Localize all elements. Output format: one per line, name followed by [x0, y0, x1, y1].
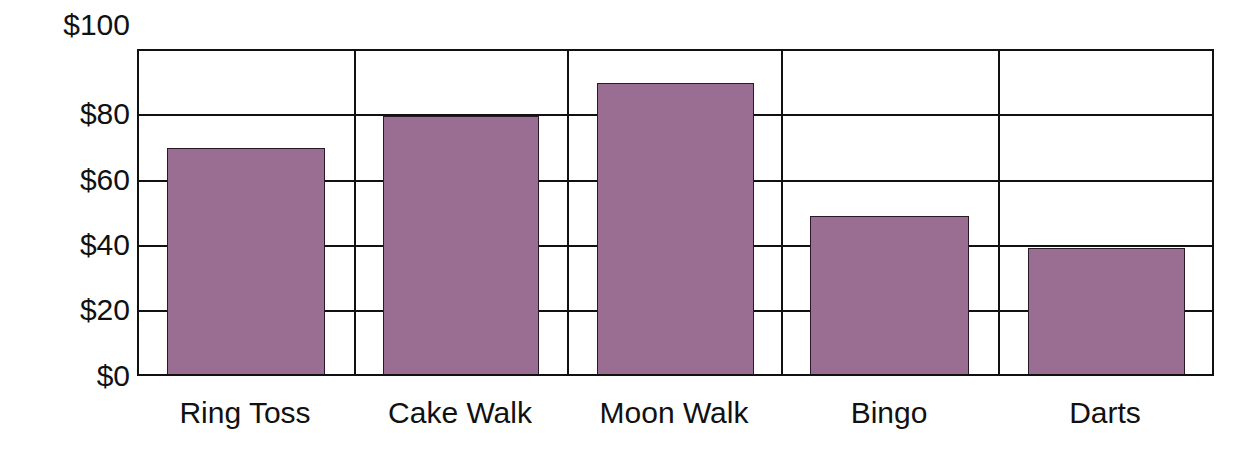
bar-ring-toss	[167, 148, 325, 374]
category-divider	[781, 51, 783, 374]
bar-moon-walk	[597, 83, 754, 374]
bar-bingo	[810, 216, 969, 374]
category-divider	[567, 51, 569, 374]
category-divider	[998, 51, 1000, 374]
bar-darts	[1028, 248, 1185, 374]
y-tick-label: $0	[97, 361, 130, 391]
y-tick-label: $40	[80, 230, 130, 260]
x-tick-label: Moon Walk	[600, 396, 749, 430]
y-tick-label: $20	[80, 295, 130, 325]
x-tick-label: Cake Walk	[388, 396, 532, 430]
x-tick-label: Ring Toss	[179, 396, 310, 430]
bar-chart: $100 $80 $60 $40 $20 $0 Ring Toss Cake W…	[0, 0, 1252, 456]
y-tick-label: $60	[80, 165, 130, 195]
y-tick-label: $100	[63, 10, 130, 40]
x-tick-label: Darts	[1069, 396, 1141, 430]
category-divider	[354, 51, 356, 374]
bar-cake-walk	[383, 116, 539, 374]
x-tick-label: Bingo	[851, 396, 928, 430]
y-tick-label: $80	[80, 99, 130, 129]
plot-area	[137, 49, 1214, 376]
